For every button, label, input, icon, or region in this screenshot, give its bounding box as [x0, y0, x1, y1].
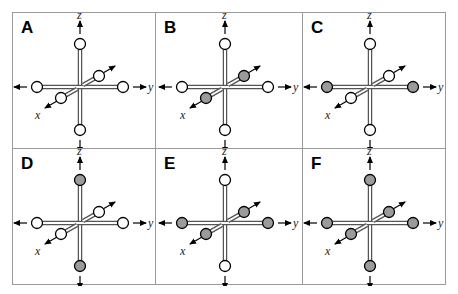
site-x-pos-filled-icon: [239, 71, 250, 82]
site-x-pos-filled-icon: [239, 207, 250, 218]
x-arrow-back-icon: [103, 202, 115, 209]
panel-d: D zyx: [12, 148, 156, 285]
axes-diagram: zyx: [13, 149, 157, 286]
z-axis-label: z: [221, 149, 227, 158]
z-axis-label: z: [366, 13, 372, 22]
y-axis-label: y: [292, 80, 299, 94]
y-axis-label: y: [437, 216, 444, 230]
x-axis-label: x: [34, 244, 41, 258]
x-arrow-back-icon: [393, 202, 405, 209]
site-y-neg-filled-icon: [322, 82, 333, 93]
x-axis-label: x: [324, 108, 331, 122]
z-axis-label: z: [76, 149, 82, 158]
site-y-pos-filled-icon: [263, 218, 274, 229]
x-arrow-front-icon: [45, 237, 57, 244]
site-x-neg-filled-icon: [201, 229, 212, 240]
site-z-neg-filled-icon: [365, 261, 376, 272]
x-arrow-front-icon: [190, 237, 202, 244]
axes-diagram: zyx: [303, 149, 447, 286]
site-y-pos-empty-icon: [263, 82, 274, 93]
site-z-neg-empty-icon: [220, 261, 231, 272]
coordinate-site-diagram: A zyx B zyx C zyx D zyx E zyx F zyx: [0, 0, 458, 294]
y-axis-label: y: [292, 216, 299, 230]
site-x-neg-empty-icon: [56, 229, 67, 240]
x-arrow-front-icon: [45, 101, 57, 108]
y-axis-label: y: [147, 80, 154, 94]
site-x-neg-filled-icon: [346, 229, 357, 240]
site-z-neg-filled-icon: [75, 261, 86, 272]
panel-f: F zyx: [302, 148, 446, 285]
z-axis-label: z: [76, 13, 82, 22]
site-y-neg-filled-icon: [177, 218, 188, 229]
x-arrow-front-icon: [190, 101, 202, 108]
site-z-neg-empty-icon: [75, 125, 86, 136]
site-x-pos-empty-icon: [94, 207, 105, 218]
site-z-pos-empty-icon: [365, 39, 376, 50]
site-x-neg-filled-icon: [201, 93, 212, 104]
site-z-pos-filled-icon: [75, 175, 86, 186]
site-z-pos-empty-icon: [75, 39, 86, 50]
site-y-pos-empty-icon: [118, 82, 129, 93]
x-arrow-front-icon: [335, 101, 347, 108]
site-y-neg-filled-icon: [322, 218, 333, 229]
x-arrow-back-icon: [248, 202, 260, 209]
site-x-neg-empty-icon: [56, 93, 67, 104]
site-x-pos-empty-icon: [94, 71, 105, 82]
site-z-pos-empty-icon: [220, 175, 231, 186]
axes-diagram: zyx: [303, 13, 447, 150]
panel-e: E zyx: [155, 148, 303, 285]
site-y-pos-empty-icon: [118, 218, 129, 229]
y-axis-label: y: [147, 216, 154, 230]
x-axis-label: x: [179, 108, 186, 122]
site-y-pos-filled-icon: [408, 218, 419, 229]
panel-b: B zyx: [155, 12, 303, 149]
x-axis-label: x: [324, 244, 331, 258]
x-arrow-back-icon: [393, 66, 405, 73]
site-x-neg-empty-icon: [346, 93, 357, 104]
axes-diagram: zyx: [156, 13, 304, 150]
site-y-pos-filled-icon: [408, 82, 419, 93]
site-y-neg-empty-icon: [32, 82, 43, 93]
axes-diagram: zyx: [13, 13, 157, 150]
panel-c: C zyx: [302, 12, 446, 149]
x-arrow-back-icon: [248, 66, 260, 73]
z-axis-label: z: [221, 13, 227, 22]
site-y-neg-empty-icon: [32, 218, 43, 229]
axes-diagram: zyx: [156, 149, 304, 286]
x-axis-label: x: [179, 244, 186, 258]
panel-a: A zyx: [12, 12, 156, 149]
site-z-neg-empty-icon: [220, 125, 231, 136]
site-z-neg-empty-icon: [365, 125, 376, 136]
x-arrow-back-icon: [103, 66, 115, 73]
site-y-neg-empty-icon: [177, 82, 188, 93]
site-x-pos-empty-icon: [384, 71, 395, 82]
site-z-pos-empty-icon: [220, 39, 231, 50]
z-axis-label: z: [366, 149, 372, 158]
site-z-pos-filled-icon: [365, 175, 376, 186]
site-x-pos-filled-icon: [384, 207, 395, 218]
x-arrow-front-icon: [335, 237, 347, 244]
x-axis-label: x: [34, 108, 41, 122]
y-axis-label: y: [437, 80, 444, 94]
